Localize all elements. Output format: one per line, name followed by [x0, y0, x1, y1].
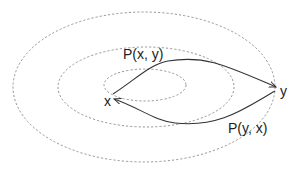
- node-y-label: y: [280, 83, 287, 99]
- path-y-to-x: [114, 91, 275, 124]
- node-x-label: x: [104, 93, 111, 109]
- outer-ellipse: [13, 12, 275, 162]
- edge-yx-label: P(y, x): [228, 120, 267, 136]
- path-x-to-y: [113, 59, 276, 94]
- diagram-svg: x y P(x, y) P(y, x): [0, 0, 298, 169]
- diagram-canvas: x y P(x, y) P(y, x): [0, 0, 298, 169]
- inner-ellipse: [104, 69, 186, 101]
- edge-xy-label: P(x, y): [123, 46, 163, 62]
